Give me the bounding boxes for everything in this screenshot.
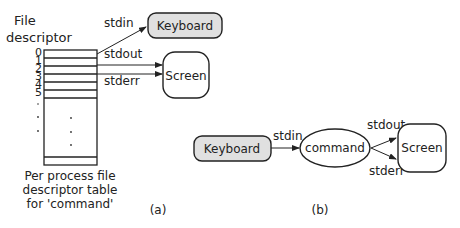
caption-line3: for 'command': [27, 197, 114, 211]
fd-title-line1: File: [14, 13, 36, 28]
stdin-label-b: stdin: [273, 129, 303, 143]
fd-ellipsis-left: [37, 103, 39, 132]
stdout-arrow-b: [371, 138, 396, 148]
diagram-canvas: File descriptor 0 1 2 3 4 5: [0, 0, 460, 228]
caption-line1: Per process file: [24, 169, 115, 183]
panel-label-b: (b): [312, 203, 329, 217]
stderr-label: stderr: [104, 74, 140, 88]
fd-ellipsis-table: [70, 117, 72, 146]
diagram-b: Keyboard stdin command stdout stderr Scr…: [194, 118, 446, 217]
fd-title-line2: descriptor: [6, 30, 72, 45]
diagram-a: File descriptor 0 1 2 3 4 5: [6, 13, 222, 217]
fd-table: [44, 50, 97, 165]
screen-label: Screen: [165, 69, 206, 83]
stderr-arrow-b: [371, 148, 396, 159]
keyboard-label: Keyboard: [157, 19, 213, 33]
stdin-label: stdin: [104, 16, 134, 30]
fd-number: 5: [35, 86, 42, 99]
caption-line2: descriptor table: [23, 183, 118, 197]
stdout-label: stdout: [104, 47, 143, 61]
screen-label-b: Screen: [401, 141, 442, 155]
fd-numbers: 0 1 2 3 4 5: [35, 46, 42, 99]
keyboard-label-b: Keyboard: [204, 142, 260, 156]
command-label: command: [305, 141, 365, 155]
panel-label-a: (a): [150, 203, 167, 217]
